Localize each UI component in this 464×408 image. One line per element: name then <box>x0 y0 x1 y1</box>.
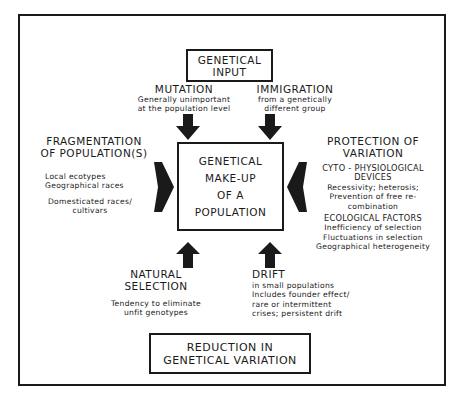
reduction-box-line-2: GENETICAL VARIATION <box>163 354 297 367</box>
mutation-text-1: Generally unimportant <box>114 95 254 104</box>
ecological-text-1: Inefficiency of selection <box>308 223 438 232</box>
input-box-line-1: GENETICAL <box>198 54 262 66</box>
ecological-text-3: Geographical heterogeneity <box>308 242 438 251</box>
selection-title-1: NATURAL <box>96 268 216 280</box>
drift-text-3: rare or intermittent <box>252 300 350 309</box>
input-box-line-2: INPUT <box>213 66 247 78</box>
selection-title-2: SELECTION <box>96 280 216 292</box>
natural-selection-block: NATURAL SELECTION <box>96 268 216 292</box>
mutation-title: MUTATION <box>114 83 254 95</box>
center-box-line-2: MAKE-UP <box>205 170 256 187</box>
center-box-line-1: GENETICAL <box>199 153 263 170</box>
arrow-up-selection-icon <box>176 242 200 268</box>
natural-selection-text: Tendency to eliminate unfit genotypes <box>96 299 216 318</box>
immigration-block: IMMIGRATION from a genetically different… <box>240 83 350 114</box>
reduction-box-line-1: REDUCTION IN <box>187 341 274 354</box>
protection-cyto: CYTO - PHYSIOLOGICAL DEVICES Recessivity… <box>308 164 438 211</box>
fragmentation-text-2: Geographical races <box>45 181 124 190</box>
reduction-box: REDUCTION IN GENETICAL VARIATION <box>149 333 311 374</box>
fragmentation-group-2: Domesticated races/ cultivars <box>38 197 142 216</box>
genetical-makeup-box: GENETICAL MAKE-UP OF A POPULATION <box>177 142 284 231</box>
center-box-line-3: OF A <box>217 187 244 204</box>
arrow-right-fragmentation-icon <box>154 162 174 212</box>
mutation-block: MUTATION Generally unimportant at the po… <box>114 83 254 114</box>
genetical-input-box: GENETICAL INPUT <box>186 49 273 82</box>
arrow-down-mutation-icon <box>176 114 200 140</box>
drift-title: DRIFT <box>252 268 350 280</box>
cyto-text-3: combination <box>308 202 438 211</box>
fragmentation-title-2: OF POPULATION(S) <box>34 147 154 159</box>
protection-title-2: VARIATION <box>308 147 438 159</box>
fragmentation-group-1: Local ecotypes Geographical races <box>45 172 124 191</box>
center-box-line-4: POPULATION <box>195 204 267 221</box>
fragmentation-text-4: cultivars <box>38 206 142 215</box>
protection-title-1: PROTECTION OF <box>308 135 438 147</box>
drift-block: DRIFT in small populations Includes foun… <box>252 268 350 319</box>
drift-text-1: in small populations <box>252 281 350 290</box>
drift-text-4: crises; persistent drift <box>252 309 350 318</box>
fragmentation-block: FRAGMENTATION OF POPULATION(S) <box>34 135 154 159</box>
arrow-up-drift-icon <box>258 242 282 268</box>
protection-block: PROTECTION OF VARIATION <box>308 135 438 159</box>
mutation-text-2: at the population level <box>114 104 254 113</box>
fragmentation-text-3: Domesticated races/ <box>38 197 142 206</box>
arrow-down-immigration-icon <box>258 114 282 140</box>
protection-ecological: ECOLOGICAL FACTORS Inefficiency of selec… <box>308 214 438 252</box>
fragmentation-title-1: FRAGMENTATION <box>34 135 154 147</box>
selection-text-1: Tendency to eliminate <box>96 299 216 308</box>
fragmentation-text-1: Local ecotypes <box>45 172 124 181</box>
immigration-text-1: from a genetically <box>240 95 350 104</box>
selection-text-2: unfit genotypes <box>96 308 216 317</box>
cyto-text-1: Recessivity; heterosis; <box>308 183 438 192</box>
immigration-text-2: different group <box>240 104 350 113</box>
cyto-title-2: DEVICES <box>308 173 438 182</box>
arrow-left-protection-icon <box>287 162 307 212</box>
ecological-text-2: Fluctuations in selection <box>308 233 438 242</box>
drift-text-2: Includes founder effect/ <box>252 290 350 299</box>
ecological-title: ECOLOGICAL FACTORS <box>308 214 438 223</box>
immigration-title: IMMIGRATION <box>240 83 350 95</box>
cyto-text-2: Prevention of free re- <box>308 192 438 201</box>
